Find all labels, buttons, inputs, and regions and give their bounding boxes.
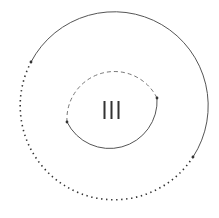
outer-solid-arc: [31, 12, 208, 157]
outer-dotted-arc: [20, 62, 193, 200]
outer-endpoint-dot: [30, 61, 33, 64]
outer-endpoint-dot: [192, 156, 195, 159]
